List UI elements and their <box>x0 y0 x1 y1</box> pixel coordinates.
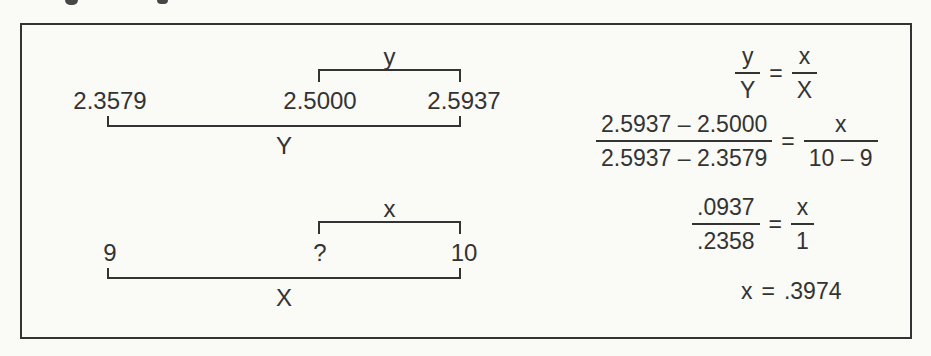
fraction: y Y <box>735 42 760 105</box>
large-bracket <box>107 268 461 279</box>
equals-sign: = <box>769 60 782 86</box>
diagram-value-right: 10 <box>451 240 478 266</box>
large-bracket-label-X: X <box>107 285 461 310</box>
diagram-y-scale: y 2.3579 2.5000 2.5937 Y <box>22 44 542 166</box>
equals-sign: = <box>762 278 775 304</box>
equation-substitution: 2.5937 – 2.5000 2.5937 – 2.3579 = x 10 –… <box>596 110 878 173</box>
diagram-x-scale: x 9 ? 10 X <box>22 196 542 318</box>
result-lhs: x <box>741 278 753 304</box>
result-value: .3974 <box>784 278 842 304</box>
small-bracket-label-y: y <box>318 44 461 69</box>
fraction-numerator: 2.5937 – 2.5000 <box>596 110 772 140</box>
small-bracket <box>318 69 461 82</box>
cropped-text-remnant <box>157 0 168 4</box>
diagram-value-left: 9 <box>103 240 116 266</box>
equation-result: x = .3974 <box>741 278 842 304</box>
large-bracket-label-Y: Y <box>107 133 461 158</box>
fraction-numerator: .0937 <box>692 193 760 223</box>
figure-frame: y 2.3579 2.5000 2.5937 Y x 9 ? 10 X y Y … <box>20 23 912 339</box>
fraction-denominator: 10 – 9 <box>804 142 878 172</box>
small-bracket <box>318 221 461 234</box>
diagram-value-middle: 2.5000 <box>283 88 356 114</box>
equation-proportion: y Y = x X <box>735 42 817 105</box>
fraction: x 10 – 9 <box>804 110 878 173</box>
fraction: .0937 .2358 <box>692 193 760 256</box>
figure-canvas: y 2.3579 2.5000 2.5937 Y x 9 ? 10 X y Y … <box>0 0 931 356</box>
fraction-denominator: .2358 <box>692 225 760 255</box>
fraction: 2.5937 – 2.5000 2.5937 – 2.3579 <box>596 110 772 173</box>
fraction-numerator: x <box>794 42 816 72</box>
equation-simplified: .0937 .2358 = x 1 <box>692 193 814 256</box>
diagram-value-left: 2.3579 <box>73 88 146 114</box>
fraction-numerator: y <box>737 42 759 72</box>
diagram-value-middle: ? <box>313 240 326 266</box>
cropped-text-remnant <box>65 0 78 5</box>
fraction-denominator: 2.5937 – 2.3579 <box>596 142 772 172</box>
fraction: x 1 <box>791 193 814 256</box>
fraction-numerator: x <box>792 193 814 223</box>
fraction-denominator: X <box>792 74 817 104</box>
equals-sign: = <box>781 128 794 154</box>
fraction-denominator: 1 <box>791 225 814 255</box>
fraction-denominator: Y <box>735 74 760 104</box>
fraction: x X <box>792 42 817 105</box>
large-bracket <box>107 116 461 127</box>
equals-sign: = <box>769 211 782 237</box>
fraction-numerator: x <box>830 110 852 140</box>
small-bracket-label-x: x <box>318 196 461 221</box>
diagram-value-right: 2.5937 <box>427 88 500 114</box>
